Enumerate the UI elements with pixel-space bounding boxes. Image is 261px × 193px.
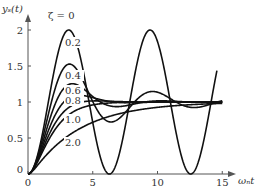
y-tick-label: 2 <box>17 25 23 36</box>
x-axis-arrow-icon <box>228 171 236 177</box>
x-axis-label: ωₙt <box>238 175 255 186</box>
series-label: 1.0 <box>65 114 81 125</box>
series-label: 0.4 <box>65 70 81 81</box>
y-tick-label: 1.5 <box>7 61 23 72</box>
y-tick-label: 1 <box>17 97 23 108</box>
y-tick-label: 0 <box>17 164 23 175</box>
series-line-zeta-2 <box>28 103 222 174</box>
series-label: 2.0 <box>65 137 81 148</box>
x-tick-label: 0 <box>25 177 31 188</box>
y-tick-label: 0.5 <box>7 133 23 144</box>
y-axis-arrow-icon <box>25 14 31 22</box>
x-tick-label: 15 <box>216 177 229 188</box>
step-response-chart: 05101500.511.52 ζ = 00.20.40.60.81.02.0 … <box>0 0 261 193</box>
x-tick-label: 10 <box>151 177 164 188</box>
series-label: 0.2 <box>65 37 81 48</box>
y-axis-label: yₛ(t) <box>1 3 23 14</box>
series-label: 0.8 <box>65 95 81 106</box>
series-label: ζ = 0 <box>48 10 75 21</box>
x-tick-label: 5 <box>90 177 96 188</box>
